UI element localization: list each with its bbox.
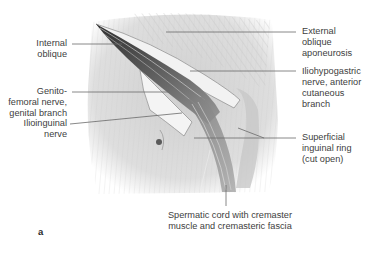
label-line: oblique <box>36 49 67 60</box>
label-line: Superficial <box>302 132 352 143</box>
label-line: branch <box>302 99 361 110</box>
label-line: Spermatic cord with cremaster <box>150 210 310 221</box>
label-line: nerve, anterior <box>302 77 361 88</box>
label-line: (cut open) <box>302 154 352 165</box>
label-line: aponeurosis <box>302 48 352 59</box>
panel-letter: a <box>38 226 43 237</box>
label-iliohypogastric-nerve: Iliohypogastric nerve, anterior cutaneou… <box>302 66 361 110</box>
label-line: Genito- <box>8 86 67 97</box>
label-line: Iliohypogastric <box>302 66 361 77</box>
label-genitofemoral-nerve: Genito- femoral nerve, genital branch <box>8 86 67 119</box>
small-node <box>156 139 162 145</box>
label-line: External <box>302 26 352 37</box>
anatomy-figure: Internal oblique Genito- femoral nerve, … <box>0 0 374 256</box>
label-superficial-inguinal-ring: Superficial inguinal ring (cut open) <box>302 132 352 165</box>
label-external-oblique-aponeurosis: External oblique aponeurosis <box>302 26 352 59</box>
label-ilioinguinal-nerve: Ilioinguinal nerve <box>24 118 67 140</box>
label-line: oblique <box>302 37 352 48</box>
label-line: muscle and cremasteric fascia <box>150 221 310 232</box>
label-line: Ilioinguinal <box>24 118 67 129</box>
label-line: inguinal ring <box>302 143 352 154</box>
label-spermatic-cord: Spermatic cord with cremaster muscle and… <box>150 210 310 232</box>
label-line: Internal <box>36 38 67 49</box>
label-internal-oblique: Internal oblique <box>36 38 67 60</box>
label-line: nerve <box>24 129 67 140</box>
label-line: femoral nerve, <box>8 97 67 108</box>
label-line: cutaneous <box>302 88 361 99</box>
